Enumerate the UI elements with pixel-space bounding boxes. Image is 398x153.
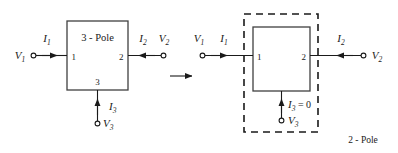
left-i1-label: I1	[42, 32, 50, 47]
right-i1-label: I1	[219, 32, 227, 47]
right-port-2-number: 2	[302, 52, 307, 62]
left-network-group: 3 - Pole 1 2 3 V1 I1	[15, 21, 170, 132]
left-port-3-number: 3	[95, 77, 100, 87]
right-v3-terminal	[279, 118, 284, 123]
right-port-1-number: 1	[257, 52, 262, 62]
right-v2-label: V2	[372, 49, 383, 64]
right-v1-label: V1	[194, 32, 204, 47]
left-port-1-number: 1	[72, 52, 77, 62]
left-v3-terminal	[95, 121, 100, 126]
left-port-2-number: 2	[119, 52, 124, 62]
right-v1-terminal	[200, 53, 205, 58]
right-network-group: 1 2 V1 I1 I2 V2	[194, 14, 383, 145]
two-pole-caption: 2 - Pole	[348, 135, 378, 145]
right-v3-label: V3	[288, 114, 299, 129]
right-v2-terminal	[361, 53, 366, 58]
left-v3-label: V3	[103, 117, 114, 132]
left-v1-terminal	[31, 53, 36, 58]
right-i2-label: I2	[336, 32, 345, 47]
left-v2-terminal	[161, 53, 166, 58]
figure-canvas: 3 - Pole 1 2 3 V1 I1	[0, 0, 398, 153]
left-v1-label: V1	[15, 49, 25, 64]
circuit-diagram: 3 - Pole 1 2 3 V1 I1	[0, 0, 398, 153]
left-i2-label: I2	[138, 32, 147, 47]
three-pole-box-label: 3 - Pole	[81, 32, 114, 43]
left-v2-label: V2	[159, 32, 170, 47]
right-i3-label: I3 = 0	[287, 98, 311, 113]
left-i3-label: I3	[108, 100, 117, 115]
